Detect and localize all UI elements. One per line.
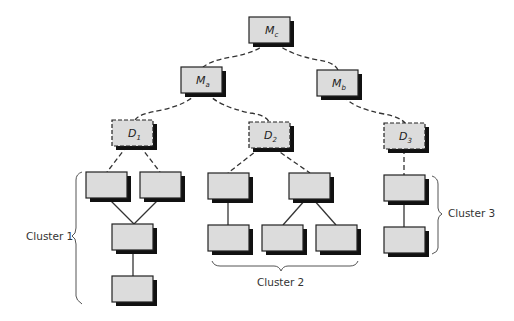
cluster2-node-5[interactable] [316,225,361,255]
node-ma-label: M [196,74,206,87]
cluster3-nodes [384,175,429,257]
edge-mc-mb [276,43,338,70]
cluster1-node-1[interactable] [86,172,131,202]
node-d3-label: D [399,130,407,143]
edge-ma-d1 [135,93,197,120]
cluster2-nodes [208,173,361,255]
cluster3-node-2[interactable] [384,227,429,257]
node-mc-sub: c [275,31,279,39]
dashed-edges [107,43,405,175]
node-mb-label: M [332,77,342,90]
node-d2-sub: 2 [272,136,277,144]
cluster3-node-1[interactable] [384,175,429,205]
node-d1-label: D [128,127,136,140]
cluster3-brace [432,176,442,254]
cluster1-node-3[interactable] [112,224,157,254]
cluster2-node-4[interactable] [262,225,307,255]
cluster1-label: Cluster 1 [26,230,73,242]
cluster2-node-3[interactable] [208,225,253,255]
node-d1-sub: 1 [136,134,140,142]
node-mb-sub: b [342,84,347,92]
cluster1-node-2[interactable] [140,172,185,202]
cluster2-label: Cluster 2 [257,276,304,288]
node-d1[interactable]: D1 [112,120,157,150]
edge-ma-d2 [207,93,269,122]
node-mc-label: M [265,24,275,37]
cluster1-nodes [86,172,185,306]
node-d3[interactable]: D3 [384,123,429,153]
node-mb[interactable]: Mb [317,70,362,100]
cluster2-brace [212,261,358,271]
node-d2-label: D [264,129,272,142]
cluster2-node-2[interactable] [289,173,334,203]
cluster3-label: Cluster 3 [448,207,495,219]
cluster2-node-1[interactable] [208,173,253,203]
node-d3-sub: 3 [407,137,411,145]
node-ma-sub: a [206,81,210,89]
cluster1-node-4[interactable] [112,276,157,306]
cluster-hierarchy-diagram: Mc Ma Mb D1 D2 D3 [0,0,514,321]
node-d2[interactable]: D2 [249,122,294,152]
node-mc[interactable]: Mc [249,17,294,47]
edge-mb-d3 [344,96,405,123]
cluster1-brace [72,172,82,304]
node-ma[interactable]: Ma [181,67,226,97]
